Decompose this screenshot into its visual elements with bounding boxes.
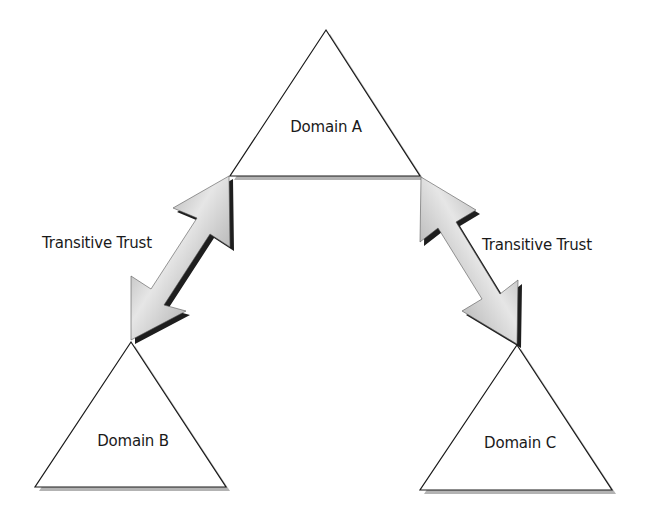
domain-c-triangle: [420, 345, 612, 490]
domain-b-triangle: [35, 342, 226, 487]
domain-a-node: [230, 30, 424, 180]
double-arrow-icon: [420, 177, 518, 344]
trust-arrow-a-c: [420, 177, 522, 348]
trust-diagram: Domain A Domain B Domain C Transitive Tr…: [0, 0, 646, 517]
domain-b-label: Domain B: [97, 432, 169, 450]
domain-c-node: [420, 345, 616, 494]
domain-b-node: [35, 342, 230, 491]
trust-arrow-a-b: [131, 176, 234, 344]
domain-a-triangle: [230, 30, 420, 176]
trust-label-a-c: Transitive Trust: [482, 236, 592, 254]
domain-c-label: Domain C: [484, 434, 556, 452]
trust-label-a-b: Transitive Trust: [42, 234, 152, 252]
domain-a-label: Domain A: [290, 118, 362, 136]
